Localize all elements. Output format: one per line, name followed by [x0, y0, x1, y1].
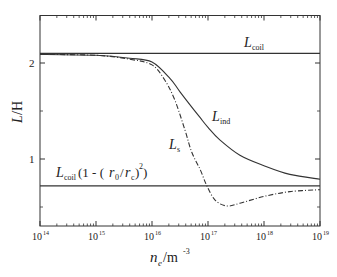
svg-text:-3: -3	[183, 247, 190, 256]
svg-text:/m: /m	[163, 250, 178, 265]
x-tick-label: 10	[88, 231, 98, 242]
label-ls: L s	[168, 137, 180, 154]
series-group	[40, 53, 320, 206]
plot-frame	[40, 16, 320, 227]
label-lind: L ind	[211, 109, 230, 126]
chart: 101410151016101710181019 12 n e /m -3 L …	[0, 0, 337, 277]
svg-text:coil: coil	[64, 173, 77, 182]
svg-text:L: L	[211, 109, 220, 124]
svg-text:ind: ind	[220, 117, 230, 126]
y-axis-label: L /H	[10, 101, 25, 124]
x-tick-label: 10	[144, 231, 154, 242]
svg-text:n: n	[150, 249, 158, 265]
x-tick-exponent: 14	[43, 230, 49, 236]
y-tick-label: 1	[29, 153, 35, 165]
svg-text:/: /	[120, 165, 124, 180]
svg-text:): )	[143, 165, 147, 180]
svg-text:L: L	[55, 165, 64, 180]
svg-text:L: L	[243, 35, 252, 50]
x-tick-exponent: 19	[323, 230, 329, 236]
label-lcoil: L coil	[243, 35, 265, 52]
label-lower-line: L coil (1 - ( r 0 / r c ) 2 )	[55, 162, 147, 182]
svg-text:0: 0	[115, 173, 119, 182]
svg-text:s: s	[177, 145, 180, 154]
series-l-s	[40, 54, 320, 206]
x-tick-label: 10	[256, 231, 266, 242]
svg-text:L: L	[10, 115, 25, 124]
svg-text:L: L	[168, 137, 177, 152]
x-tick-exponent: 15	[99, 230, 105, 236]
x-tick-exponent: 17	[211, 230, 217, 236]
svg-text:e: e	[158, 258, 162, 268]
x-axis-ticks: 101410151016101710181019	[32, 16, 329, 243]
svg-text:(1 - (: (1 - (	[78, 165, 104, 180]
svg-text:/H: /H	[10, 101, 25, 115]
y-axis-ticks: 12	[29, 57, 320, 207]
svg-text:coil: coil	[252, 43, 265, 52]
x-tick-label: 10	[200, 231, 210, 242]
x-tick-exponent: 16	[155, 230, 161, 236]
y-tick-label: 2	[29, 57, 35, 69]
series-l-ind	[40, 54, 320, 179]
x-axis-label: n e /m -3	[150, 247, 190, 268]
x-tick-label: 10	[312, 231, 322, 242]
x-tick-exponent: 18	[267, 230, 273, 236]
x-tick-label: 10	[32, 231, 42, 242]
